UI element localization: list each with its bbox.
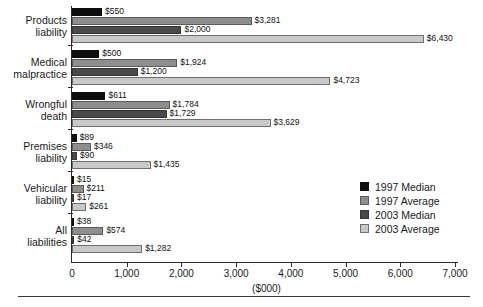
x-axis-title-text: ($000) bbox=[252, 283, 281, 294]
x-tick-label: 7,000 bbox=[442, 268, 467, 280]
bar-2-series-1[interactable] bbox=[72, 50, 99, 58]
category-label-line: Medical bbox=[0, 56, 67, 68]
x-tick-label: 1,000 bbox=[114, 268, 139, 280]
x-tick-mark bbox=[236, 263, 237, 267]
bar-row: $2,000 bbox=[72, 26, 455, 34]
bar-value-label: $3,281 bbox=[255, 15, 281, 26]
bar-value-label: $3,629 bbox=[274, 117, 300, 128]
bar-row: $346 bbox=[72, 143, 455, 151]
x-tick-label: 2,000 bbox=[169, 268, 194, 280]
bar-row: $90 bbox=[72, 152, 455, 160]
x-tick-label: 6,000 bbox=[388, 268, 413, 280]
legend-swatch-icon bbox=[360, 210, 369, 219]
bar-5-series-3[interactable] bbox=[72, 194, 74, 202]
bar-row: $6,430 bbox=[72, 35, 455, 43]
bar-row: $89 bbox=[72, 134, 455, 142]
bar-5-series-1[interactable] bbox=[72, 176, 74, 184]
x-tick-label: 5,000 bbox=[333, 268, 358, 280]
bar-6-series-3[interactable] bbox=[72, 236, 74, 244]
bar-1-series-1[interactable] bbox=[72, 8, 102, 16]
bar-chart: ProductsliabilityMedicalmalpracticeWrong… bbox=[0, 0, 483, 307]
x-tick-mark bbox=[346, 263, 347, 267]
category-group-tick bbox=[68, 87, 73, 88]
bar-4-series-3[interactable] bbox=[72, 152, 77, 160]
category-label-5: Vehicularliability bbox=[0, 182, 67, 206]
category-label-4: Premisesliability bbox=[0, 140, 67, 164]
bar-value-label: $611 bbox=[108, 90, 126, 101]
category-label-3: Wrongfuldeath bbox=[0, 98, 67, 122]
bar-value-label: $1,924 bbox=[180, 57, 206, 68]
category-label-line: liability bbox=[0, 26, 67, 38]
bar-row: $1,200 bbox=[72, 68, 455, 76]
legend-swatch-icon bbox=[360, 224, 369, 233]
bar-row: $1,282 bbox=[72, 245, 455, 253]
bar-row: $500 bbox=[72, 50, 455, 58]
bar-1-series-3[interactable] bbox=[72, 26, 181, 34]
category-label-line: liabilities bbox=[0, 236, 67, 248]
category-label-2: Medicalmalpractice bbox=[0, 56, 67, 80]
bar-5-series-4[interactable] bbox=[72, 203, 86, 211]
bar-3-series-3[interactable] bbox=[72, 110, 167, 118]
bar-row: $1,784 bbox=[72, 101, 455, 109]
bar-row: $3,281 bbox=[72, 17, 455, 25]
bottom-divider bbox=[18, 296, 470, 297]
bar-value-label: $346 bbox=[94, 141, 113, 152]
x-tick-label: 3,000 bbox=[224, 268, 249, 280]
x-tick-mark bbox=[400, 263, 401, 267]
bar-row: $3,629 bbox=[72, 119, 455, 127]
bar-value-label: $89 bbox=[80, 132, 94, 143]
category-group-tick bbox=[68, 129, 73, 130]
category-label-line: malpractice bbox=[0, 68, 67, 80]
legend-label: 2003 Median bbox=[375, 209, 436, 221]
x-axis-title: ($000) bbox=[0, 283, 483, 294]
bar-value-label: $42 bbox=[77, 234, 91, 245]
category-label-line: All bbox=[0, 224, 67, 236]
bar-row: $1,435 bbox=[72, 161, 455, 169]
bar-value-label: $261 bbox=[89, 201, 108, 212]
bar-3-series-4[interactable] bbox=[72, 119, 271, 127]
category-group-tick bbox=[68, 171, 73, 172]
legend-item-1[interactable]: 1997 Median bbox=[360, 180, 440, 193]
bar-3-series-1[interactable] bbox=[72, 92, 105, 100]
bar-1-series-2[interactable] bbox=[72, 17, 252, 25]
legend-item-4[interactable]: 2003 Average bbox=[360, 222, 440, 235]
bar-6-series-1[interactable] bbox=[72, 218, 74, 226]
category-label-line: Premises bbox=[0, 140, 67, 152]
bar-value-label: $500 bbox=[102, 48, 121, 59]
bar-value-label: $574 bbox=[106, 225, 125, 236]
bar-2-series-4[interactable] bbox=[72, 77, 330, 85]
x-tick-mark bbox=[455, 263, 456, 267]
legend-item-2[interactable]: 1997 Average bbox=[360, 194, 440, 207]
legend-label: 1997 Average bbox=[375, 195, 440, 207]
bar-value-label: $38 bbox=[77, 216, 91, 227]
x-tick-mark bbox=[181, 263, 182, 267]
bar-value-label: $1,282 bbox=[145, 243, 171, 254]
bar-1-series-4[interactable] bbox=[72, 35, 424, 43]
bar-value-label: $2,000 bbox=[184, 24, 210, 35]
category-label-line: Products bbox=[0, 14, 67, 26]
x-tick-label: 4,000 bbox=[278, 268, 303, 280]
bar-2-series-3[interactable] bbox=[72, 68, 138, 76]
legend-label: 1997 Median bbox=[375, 181, 436, 193]
category-axis-labels: ProductsliabilityMedicalmalpracticeWrong… bbox=[0, 6, 67, 262]
category-group-tick bbox=[68, 213, 73, 214]
bar-row: $611 bbox=[72, 92, 455, 100]
bar-4-series-4[interactable] bbox=[72, 161, 151, 169]
category-label-6: Allliabilities bbox=[0, 224, 67, 248]
bar-row: $1,924 bbox=[72, 59, 455, 67]
category-label-line: death bbox=[0, 110, 67, 122]
bar-6-series-4[interactable] bbox=[72, 245, 142, 253]
legend-item-3[interactable]: 2003 Median bbox=[360, 208, 440, 221]
category-label-line: Wrongful bbox=[0, 98, 67, 110]
category-label-line: liability bbox=[0, 152, 67, 164]
legend-label: 2003 Average bbox=[375, 223, 440, 235]
bar-4-series-1[interactable] bbox=[72, 134, 77, 142]
category-label-line: liability bbox=[0, 194, 67, 206]
bar-value-label: $6,430 bbox=[427, 33, 453, 44]
bar-value-label: $4,723 bbox=[333, 75, 359, 86]
legend-swatch-icon bbox=[360, 182, 369, 191]
x-tick-label: 0 bbox=[69, 268, 75, 280]
category-group-tick bbox=[68, 45, 73, 46]
bar-3-series-2[interactable] bbox=[72, 101, 170, 109]
bar-row: $4,723 bbox=[72, 77, 455, 85]
